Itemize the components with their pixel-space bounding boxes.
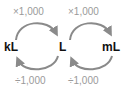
multiply-label-kl-l: ×1,000 (13, 7, 44, 17)
arrow-l-to-kl (18, 56, 58, 69)
arrow-kl-to-l (16, 23, 56, 40)
arrow-l-to-ml (70, 23, 110, 40)
divide-label-ml-l: ÷1,000 (68, 76, 99, 86)
arrow-ml-to-l (72, 56, 112, 69)
multiply-label-l-ml: ×1,000 (68, 7, 99, 17)
divide-label-l-kl: ÷1,000 (15, 76, 46, 86)
unit-kl: kL (4, 41, 18, 53)
unit-ml: mL (102, 41, 120, 53)
unit-l: L (59, 41, 66, 53)
